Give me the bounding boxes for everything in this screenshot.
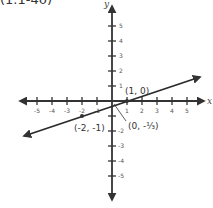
x-tick-label: -5 (34, 107, 40, 114)
point-neg2-neg1 (80, 114, 84, 118)
y-tick-label: 4 (119, 37, 123, 44)
label-point-neg2-neg1: (-2, -1) (74, 123, 105, 133)
x-tick-label: 5 (185, 107, 189, 114)
y-axis-label: y (103, 0, 110, 9)
point-1-0 (125, 99, 129, 103)
y-tick-label: -4 (118, 157, 124, 164)
x-tick-label: 4 (170, 107, 174, 114)
x-tick-label: 1 (125, 107, 129, 114)
x-tick-label: 3 (155, 107, 159, 114)
x-axis-label: x (207, 96, 212, 106)
y-tick-label: 3 (119, 52, 123, 59)
x-tick-label: -3 (64, 107, 70, 114)
x-tick-label: -4 (49, 107, 55, 114)
label-point-1-0: (1, 0) (125, 86, 149, 96)
x-tick-label: 2 (140, 107, 144, 114)
x-tick-label: -2 (79, 107, 85, 114)
coordinate-plane: -5 -4 -3 -2 -1 1 2 3 4 5 1 2 3 4 5 -2 -3… (0, 0, 213, 208)
label-y-intercept: (0, -⅓) (128, 121, 158, 131)
y-tick-label: -2 (118, 127, 124, 134)
y-tick-label: -3 (118, 142, 124, 149)
y-tick-label: 1 (119, 82, 123, 89)
y-tick-label: 5 (119, 22, 123, 29)
y-tick-label: -5 (118, 172, 124, 179)
y-tick-label: 2 (119, 67, 123, 74)
